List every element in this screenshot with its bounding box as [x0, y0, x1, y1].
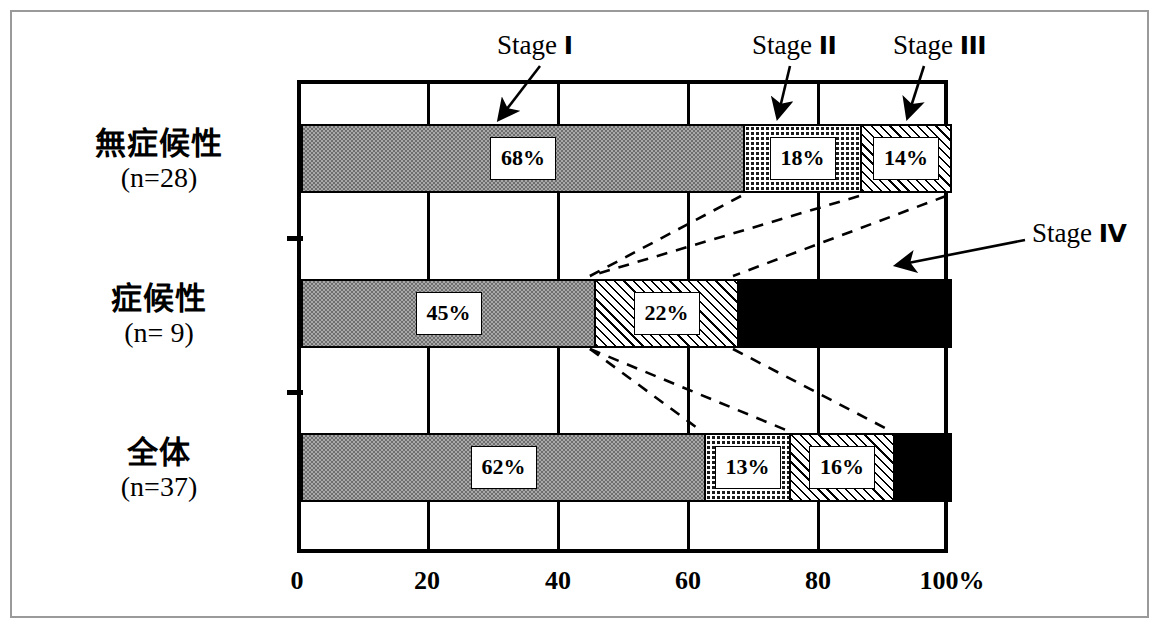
bar-segment-value-2-2: 16%	[809, 446, 875, 489]
x-tick-label-0: 0	[291, 566, 304, 596]
bar-segment-stage-4[interactable]	[737, 279, 952, 348]
category-name-0: 無症候性	[39, 126, 279, 161]
x-tick-label-20: 20	[414, 566, 440, 596]
x-tick-label-40: 40	[545, 566, 571, 596]
category-sublabel-0: (n=28)	[39, 161, 279, 195]
stage-2-word: Stage	[752, 30, 812, 60]
bar-segment-stage-4[interactable]	[893, 433, 952, 502]
bar-segment-stage-3[interactable]: 14%	[860, 124, 952, 193]
category-sublabel-1: (n= 9)	[39, 316, 279, 350]
bar-row-total: 62% 13% 16%	[301, 433, 952, 502]
bar-segment-stage-1[interactable]: 62%	[301, 433, 704, 502]
y-axis-tick-2	[287, 390, 303, 395]
stage-2-numeral: II	[819, 31, 837, 60]
stage-1-label: Stage I	[497, 30, 573, 61]
x-tick-label-60: 60	[675, 566, 701, 596]
y-axis-tick-1	[287, 236, 303, 241]
category-label-asymptomatic: 無症候性 (n=28)	[39, 126, 279, 195]
stage-3-label: Stage III	[893, 30, 986, 61]
bar-segment-value-1-1: 22%	[634, 292, 700, 335]
bar-segment-value-0-2: 14%	[873, 137, 939, 180]
bar-segment-stage-2[interactable]: 18%	[743, 124, 860, 193]
bar-segment-value-0-0: 68%	[490, 137, 556, 180]
stage-2-label: Stage II	[752, 30, 836, 61]
bar-row-symptomatic: 45% 22%	[301, 279, 952, 348]
stage-1-word: Stage	[497, 30, 557, 60]
bar-segment-stage-2[interactable]: 13%	[704, 433, 789, 502]
stage-3-numeral: III	[960, 31, 986, 60]
category-name-2: 全体	[39, 435, 279, 470]
chart-page: 無症候性 (n=28) 症候性 (n= 9) 全体 (n=37) 68% 18%…	[0, 0, 1163, 632]
bar-segment-stage-3[interactable]: 22%	[594, 279, 737, 348]
category-label-symptomatic: 症候性 (n= 9)	[39, 281, 279, 350]
bar-segment-value-0-1: 18%	[770, 137, 836, 180]
bar-segment-stage-3[interactable]: 16%	[789, 433, 893, 502]
stage-3-word: Stage	[893, 30, 953, 60]
plot-area: 68% 18% 14% 45% 22% 62% 13%	[297, 80, 948, 553]
stage-4-word: Stage	[1032, 218, 1092, 248]
x-tick-label-80: 80	[805, 566, 831, 596]
bar-segment-value-1-0: 45%	[416, 292, 482, 335]
stage-4-numeral: IV	[1099, 219, 1127, 248]
bar-segment-stage-1[interactable]: 45%	[301, 279, 594, 348]
bar-row-asymptomatic: 68% 18% 14%	[301, 124, 952, 193]
bar-segment-value-2-1: 13%	[715, 446, 781, 489]
x-tick-label-100: 100%	[920, 566, 985, 596]
bar-segment-stage-1[interactable]: 68%	[301, 124, 743, 193]
category-sublabel-2: (n=37)	[39, 470, 279, 504]
stage-4-label: Stage IV	[1032, 218, 1126, 249]
category-label-total: 全体 (n=37)	[39, 435, 279, 504]
stage-1-numeral: I	[564, 31, 573, 60]
bar-segment-value-2-0: 62%	[471, 446, 537, 489]
category-name-1: 症候性	[39, 281, 279, 316]
